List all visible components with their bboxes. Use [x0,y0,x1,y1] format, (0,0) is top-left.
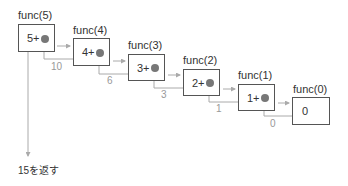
return-value: 10 [51,61,62,72]
pending-result-icon [41,35,49,43]
call-label: func(1) [238,69,272,81]
call-label: func(5) [18,9,52,21]
call-expression: 0 [302,105,308,117]
call-box: 4+ [73,38,110,66]
call-expression: 1+ [247,92,260,104]
call-box: 2+ [183,69,220,96]
call-box: 1+ [238,84,275,111]
call-expression: 2+ [192,77,205,89]
call-label: func(2) [183,54,217,66]
call-box: 5+ [18,24,55,52]
pending-result-icon [151,64,159,72]
call-expression: 3+ [137,62,150,74]
call-label: func(3) [128,39,162,51]
pending-result-icon [96,49,104,57]
pending-result-icon [261,94,269,102]
return-value: 0 [270,118,276,129]
pending-result-icon [206,79,214,87]
return-value: 6 [107,75,113,86]
call-expression: 5+ [27,32,40,44]
call-box: 3+ [128,54,165,81]
return-value: 1 [216,103,222,114]
call-box: 0 [292,97,330,125]
final-result: 15を返す [18,162,59,177]
return-value: 3 [161,89,167,100]
call-expression: 4+ [82,46,95,58]
call-label: func(0) [293,83,327,95]
call-label: func(4) [73,24,107,36]
